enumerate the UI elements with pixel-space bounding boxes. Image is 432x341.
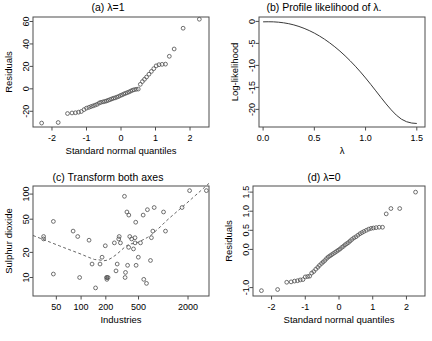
- data-point: [146, 208, 150, 212]
- data-point: [103, 244, 107, 248]
- data-point: [123, 276, 127, 280]
- y-tick-label: -20: [248, 103, 258, 116]
- y-tick-label: 60: [22, 16, 32, 26]
- y-tick-label: 50: [22, 214, 32, 224]
- y-axis-title: Residuals: [3, 51, 14, 93]
- data-point: [285, 280, 289, 284]
- panel-a-plot: -2-1012-200204060Standard normal quantil…: [0, 0, 216, 170]
- data-point: [384, 212, 388, 216]
- data-point: [164, 229, 168, 233]
- x-tick-label: -2: [268, 302, 276, 312]
- x-tick-label: -1: [82, 133, 90, 143]
- data-point: [117, 235, 121, 239]
- data-point: [181, 26, 185, 30]
- x-tick-label: 2000: [178, 302, 198, 312]
- data-point: [414, 190, 418, 194]
- panel-d: (d) λ=0 -2-1012-1.00.00.51.01.5Standard …: [216, 170, 432, 341]
- data-point: [78, 276, 82, 280]
- data-point: [124, 271, 128, 275]
- data-point: [142, 277, 146, 281]
- x-axis-title: λ: [340, 145, 345, 156]
- y-tick-label: 20: [22, 247, 32, 257]
- data-point: [51, 272, 55, 276]
- data-point: [398, 207, 402, 211]
- data-point: [172, 47, 176, 51]
- data-point: [167, 54, 171, 58]
- panel-d-plot: -2-1012-1.00.00.51.01.5Standard normal q…: [216, 170, 432, 341]
- data-layer: [263, 22, 417, 124]
- data-point: [115, 262, 119, 266]
- y-tick-label: 10: [22, 272, 32, 282]
- data-point: [127, 245, 131, 249]
- y-tick-label: 1.5: [242, 186, 252, 199]
- data-point: [42, 237, 46, 241]
- x-tick-label: 2: [404, 302, 409, 312]
- y-axis-title: Sulphur dioxide: [3, 208, 14, 274]
- likelihood-curve: [263, 22, 417, 124]
- data-point: [145, 281, 149, 285]
- x-tick-label: 500: [131, 302, 146, 312]
- data-point: [149, 259, 153, 263]
- y-tick-label: 0: [248, 19, 258, 24]
- data-point: [87, 238, 91, 242]
- data-point: [90, 262, 94, 266]
- data-layer: [33, 183, 209, 289]
- x-tick-label: 200: [98, 302, 113, 312]
- plot-frame: [253, 186, 425, 296]
- data-point: [197, 17, 201, 21]
- data-point: [152, 206, 156, 210]
- x-tick-label: 2: [188, 133, 193, 143]
- data-layer: [40, 17, 202, 125]
- data-point: [134, 220, 138, 224]
- y-tick-label: 40: [22, 39, 32, 49]
- x-tick-label: 1: [370, 302, 375, 312]
- data-point: [94, 286, 98, 290]
- data-point: [114, 269, 118, 273]
- data-point: [188, 189, 192, 193]
- x-tick-label: 1.5: [411, 133, 424, 143]
- data-point: [76, 235, 80, 239]
- data-point: [119, 241, 123, 245]
- data-point: [123, 194, 127, 198]
- y-tick-label: -15: [248, 81, 258, 94]
- data-point: [204, 189, 208, 193]
- y-tick-label: 0: [22, 86, 32, 91]
- data-point: [260, 289, 264, 293]
- x-tick-label: 0: [336, 302, 341, 312]
- panel-b-plot: 0.00.51.01.5-20-15-10-50λLog-likelihood: [216, 0, 432, 170]
- y-tick-label: 0.0: [242, 243, 252, 256]
- panel-c-plot: 501002005002000102050100IndustriesSulphu…: [0, 170, 216, 341]
- data-point: [112, 241, 116, 245]
- x-tick-label: -1: [301, 302, 309, 312]
- x-tick-label: 1: [153, 133, 158, 143]
- y-axis-title: Residuals: [223, 220, 234, 262]
- data-point: [66, 112, 70, 116]
- data-point: [134, 263, 138, 267]
- x-tick-label: 0: [118, 133, 123, 143]
- y-tick-label: -5: [248, 39, 258, 47]
- data-point: [56, 121, 60, 125]
- y-tick-label: 0.5: [242, 224, 252, 237]
- panel-c: (c) Transform both axes 5010020050020001…: [0, 170, 216, 341]
- y-tick-label: 100: [22, 187, 32, 202]
- data-point: [150, 236, 154, 240]
- figure-canvas: (a) λ=1 -2-1012-200204060Standard normal…: [0, 0, 432, 341]
- data-point: [151, 229, 155, 233]
- y-tick-label: -20: [22, 105, 32, 118]
- y-tick-label: 1.0: [242, 205, 252, 218]
- data-point: [126, 263, 130, 267]
- data-point: [276, 288, 280, 292]
- y-axis-title: Log-likelihood: [229, 43, 240, 102]
- y-tick-label: -10: [248, 59, 258, 72]
- panel-a: (a) λ=1 -2-1012-200204060Standard normal…: [0, 0, 216, 170]
- data-point: [389, 207, 393, 211]
- x-tick-label: 1.0: [359, 133, 372, 143]
- data-point: [40, 121, 44, 125]
- data-point: [100, 255, 104, 259]
- data-point: [139, 241, 143, 245]
- x-axis-title: Industries: [100, 314, 141, 325]
- data-point: [136, 255, 140, 259]
- data-point: [162, 210, 166, 214]
- data-point: [98, 262, 102, 266]
- panel-b: (b) Profile likelihood of λ. 0.00.51.01.…: [216, 0, 432, 170]
